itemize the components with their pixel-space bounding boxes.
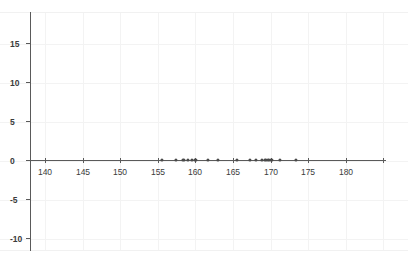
x-axis-tick bbox=[45, 158, 46, 163]
gridline-vertical bbox=[308, 13, 309, 250]
scatter-plot-figure: 140145150155160165170175180 151050-5-10 bbox=[0, 0, 408, 267]
x-axis-tick bbox=[158, 158, 159, 163]
y-axis-tick bbox=[26, 121, 31, 122]
gridline-vertical bbox=[158, 13, 159, 250]
y-axis-tick-label: -10 bbox=[10, 234, 22, 244]
gridline-vertical bbox=[383, 13, 384, 250]
gridline-horizontal bbox=[0, 200, 408, 201]
plot-area bbox=[0, 12, 408, 251]
gridline-vertical bbox=[45, 13, 46, 250]
x-axis-tick-label: 150 bbox=[113, 167, 127, 177]
gridline-vertical bbox=[83, 13, 84, 250]
gridline-vertical bbox=[271, 13, 272, 250]
gridline-vertical bbox=[233, 13, 234, 250]
gridline-horizontal bbox=[0, 44, 408, 45]
y-axis-tick bbox=[26, 199, 31, 200]
y-axis-tick bbox=[26, 43, 31, 44]
y-axis-tick-label: 10 bbox=[10, 78, 19, 88]
gridline-vertical bbox=[346, 13, 347, 250]
gridline-horizontal bbox=[0, 239, 408, 240]
x-axis-tick-label: 140 bbox=[38, 167, 52, 177]
gridline-horizontal bbox=[0, 83, 408, 84]
y-axis-tick-label: -5 bbox=[10, 195, 18, 205]
y-axis-tick-label: 15 bbox=[10, 39, 19, 49]
x-axis-tick-label: 170 bbox=[264, 167, 278, 177]
x-axis-tick bbox=[346, 158, 347, 163]
x-axis-tick-label: 165 bbox=[226, 167, 240, 177]
gridline-vertical bbox=[195, 13, 196, 250]
x-axis-tick-label: 160 bbox=[188, 167, 202, 177]
y-axis-line bbox=[30, 12, 31, 251]
x-axis-tick bbox=[120, 158, 121, 163]
y-axis-tick-label: 5 bbox=[10, 117, 15, 127]
y-axis-tick bbox=[26, 82, 31, 83]
y-axis-tick bbox=[26, 160, 31, 161]
x-axis-tick-label: 175 bbox=[301, 167, 315, 177]
x-axis-tick bbox=[383, 158, 384, 163]
x-axis-tick bbox=[83, 158, 84, 163]
x-axis-tick-label: 180 bbox=[339, 167, 353, 177]
gridline-vertical bbox=[120, 13, 121, 250]
y-axis-tick-label: 0 bbox=[10, 156, 15, 166]
y-axis-tick bbox=[26, 238, 31, 239]
x-axis-tick bbox=[308, 158, 309, 163]
x-axis-tick-label: 145 bbox=[76, 167, 90, 177]
x-axis-tick bbox=[233, 158, 234, 163]
gridline-horizontal bbox=[0, 122, 408, 123]
x-axis-tick-label: 155 bbox=[151, 167, 165, 177]
